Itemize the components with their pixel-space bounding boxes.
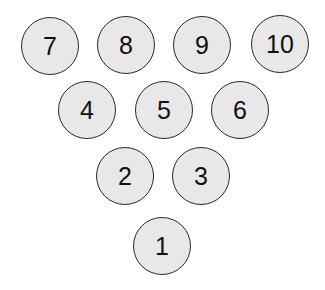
pin-2: 2 <box>96 147 154 205</box>
pin-1: 1 <box>133 217 191 275</box>
pin-5: 5 <box>135 81 193 139</box>
pin-4: 4 <box>58 81 116 139</box>
pin-diagram: 7 8 9 10 4 5 6 2 3 1 <box>0 0 325 290</box>
pin-10: 10 <box>251 15 309 73</box>
pin-3: 3 <box>172 147 230 205</box>
pin-7: 7 <box>21 17 79 75</box>
pin-6: 6 <box>211 81 269 139</box>
pin-8: 8 <box>97 16 155 74</box>
pin-9: 9 <box>173 16 231 74</box>
